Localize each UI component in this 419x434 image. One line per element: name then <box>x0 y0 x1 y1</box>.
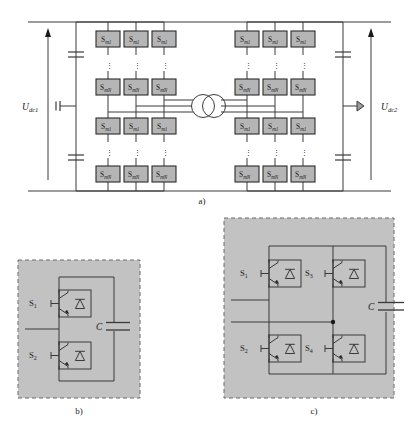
module-right-r4-c2[interactable]: SmN <box>263 166 287 182</box>
panel-c-junction-dot <box>331 320 335 324</box>
panel-c-capacitor-label: C <box>368 302 375 312</box>
udc1-arrow <box>45 28 51 180</box>
module-left-r3-c3[interactable]: Sm1 <box>152 118 176 134</box>
module-left-r3-c1[interactable]: Sm1 <box>96 118 120 134</box>
udc1-label: Udc1 <box>22 102 38 113</box>
module-right-r3-c2[interactable]: Sm1 <box>263 118 287 134</box>
module-right-r4-c1[interactable]: SmN <box>235 166 259 182</box>
ellipsis-right-l-c3: ⋮ <box>301 148 308 157</box>
caption-a: a) <box>199 196 206 206</box>
module-right-r1-c3[interactable]: Sm1 <box>291 31 315 47</box>
module-right-r2-c1[interactable]: SmN <box>235 79 259 95</box>
caption-b: b) <box>75 406 83 416</box>
udc2-label: Udc2 <box>381 102 398 113</box>
module-left-r2-c3[interactable]: SmN <box>152 79 176 95</box>
transformer-symbol <box>192 95 226 118</box>
left-midpoint-tap <box>56 101 76 111</box>
module-left-r1-c3[interactable]: Sm1 <box>152 31 176 47</box>
module-right-r3-c1[interactable]: Sm1 <box>235 118 259 134</box>
module-left-r3-c2[interactable]: Sm1 <box>124 118 148 134</box>
panel-c-full-bridge: S1 S3 S2 S4 <box>224 218 404 416</box>
module-left-r4-c1[interactable]: SmN <box>96 166 120 182</box>
panel-b-capacitor-label: C <box>96 322 103 332</box>
udc2-arrow <box>368 28 374 180</box>
ellipsis-right-l-c2: ⋮ <box>273 148 280 157</box>
module-left-r2-c1[interactable]: SmN <box>96 79 120 95</box>
ellipsis-left-u-c2: ⋮ <box>134 61 141 70</box>
module-right-r1-c1[interactable]: Sm1 <box>235 31 259 47</box>
module-right-r2-c2[interactable]: SmN <box>263 79 287 95</box>
module-left-r2-c2[interactable]: SmN <box>124 79 148 95</box>
panel-a-topology: Udc1 <box>22 22 398 206</box>
module-right-r3-c3[interactable]: Sm1 <box>291 118 315 134</box>
module-left-r4-c2[interactable]: SmN <box>124 166 148 182</box>
module-right-r4-c3[interactable]: SmN <box>291 166 315 182</box>
module-left-r1-c2[interactable]: Sm1 <box>124 31 148 47</box>
figure-root: Udc1 <box>0 0 419 434</box>
module-right-r1-c2[interactable]: Sm1 <box>263 31 287 47</box>
caption-c: c) <box>311 406 318 416</box>
ellipsis-right-u-c2: ⋮ <box>273 61 280 70</box>
ellipsis-left-l-c2: ⋮ <box>134 148 141 157</box>
module-right-r2-c3[interactable]: SmN <box>291 79 315 95</box>
ellipsis-left-l-c1: ⋮ <box>106 148 113 157</box>
converter-topology-figure: Udc1 <box>0 0 419 434</box>
ellipsis-right-l-c1: ⋮ <box>245 148 252 157</box>
ellipsis-right-u-c3: ⋮ <box>301 61 308 70</box>
ellipsis-left-u-c3: ⋮ <box>162 61 169 70</box>
module-left-r1-c1[interactable]: Sm1 <box>96 31 120 47</box>
ellipsis-right-u-c1: ⋮ <box>245 61 252 70</box>
right-midpoint-tap <box>343 101 364 111</box>
module-left-r4-c3[interactable]: SmN <box>152 166 176 182</box>
ellipsis-left-l-c3: ⋮ <box>162 148 169 157</box>
ellipsis-left-u-c1: ⋮ <box>106 61 113 70</box>
panel-b-half-bridge: S1 S2 C b) <box>18 260 140 416</box>
